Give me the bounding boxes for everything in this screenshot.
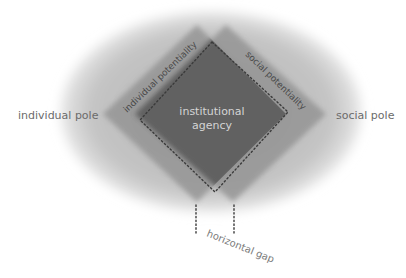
horizontal-gap-label: horizontal gap	[205, 228, 276, 265]
institutional-agency-label-line1: institutional	[179, 105, 244, 118]
individual-pole-label: individual pole	[18, 109, 99, 122]
institutional-agency-label-line2: agency	[192, 119, 233, 132]
agency-diagram: individual pole social pole individual p…	[0, 0, 406, 278]
social-pole-label: social pole	[336, 109, 395, 122]
